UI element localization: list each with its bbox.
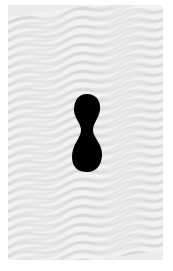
peanut-shape (70, 92, 104, 174)
peanut-silhouette-icon (72, 94, 102, 172)
